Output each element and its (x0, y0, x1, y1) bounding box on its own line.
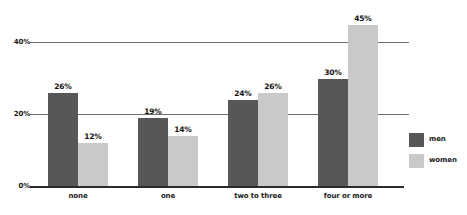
legend: men women (409, 131, 467, 173)
bar-group-one: 19% 14% (138, 8, 210, 186)
y-tick-label-40: 40% (14, 38, 30, 46)
y-tick-label-20: 20% (14, 110, 30, 118)
legend-item-women: women (409, 152, 467, 173)
bar-value-men-four-or-more: 30% (324, 68, 341, 77)
x-tick-label-two-to-three: two to three (234, 192, 282, 200)
y-axis-labels: 40% 20% 0% (0, 8, 30, 186)
x-axis-baseline (30, 186, 404, 188)
bar-men-two-to-three: 24% (228, 100, 258, 186)
bar-value-men-two-to-three: 24% (234, 89, 251, 98)
bar-women-none: 12% (78, 143, 108, 186)
y-tick-mark-40 (30, 42, 36, 43)
bar-chart: 40% 20% 0% 26% 12% 19% (0, 0, 467, 215)
bar-value-women-one: 14% (174, 125, 191, 134)
bar-value-women-none: 12% (84, 132, 101, 141)
bar-value-women-two-to-three: 26% (264, 82, 281, 91)
x-tick-label-none: none (68, 192, 87, 200)
x-tick-label-one: one (161, 192, 175, 200)
bar-men-none: 26% (48, 93, 78, 186)
bar-women-two-to-three: 26% (258, 93, 288, 186)
y-tick-label-0: 0% (19, 182, 30, 190)
legend-swatch-women-icon (409, 154, 424, 168)
bar-value-women-four-or-more: 45% (354, 14, 371, 23)
bar-women-one: 14% (168, 136, 198, 186)
bar-value-men-one: 19% (144, 107, 161, 116)
bar-men-one: 19% (138, 118, 168, 186)
bar-group-two-to-three: 24% 26% (228, 8, 300, 186)
legend-item-men: men (409, 131, 467, 152)
legend-label-women: women (429, 156, 457, 164)
y-tick-mark-right-20 (398, 114, 409, 115)
bar-men-four-or-more: 30% (318, 79, 348, 186)
bar-women-four-or-more: 45% (348, 25, 378, 186)
bar-value-men-none: 26% (54, 82, 71, 91)
legend-swatch-men-icon (409, 133, 424, 147)
bar-group-none: 26% 12% (48, 8, 120, 186)
bar-group-four-or-more: 30% 45% (318, 8, 390, 186)
legend-label-men: men (429, 135, 446, 143)
y-tick-mark-right-40 (398, 42, 409, 43)
plot-area: 26% 12% 19% 14% 24% 26% (36, 8, 398, 186)
y-tick-mark-20 (30, 114, 36, 115)
x-tick-label-four-or-more: four or more (324, 192, 373, 200)
